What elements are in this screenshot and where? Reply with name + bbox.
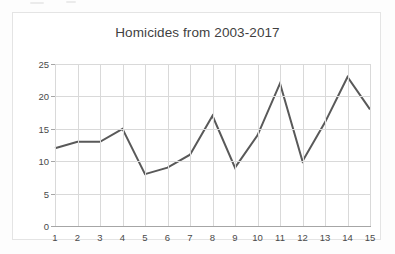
- x-axis-tick-label: 1: [52, 232, 57, 243]
- y-axis-tick-label: 20: [21, 91, 49, 102]
- gridline-vertical: [190, 64, 191, 226]
- gridline-vertical: [348, 64, 349, 226]
- y-axis-tick-label: 10: [21, 156, 49, 167]
- x-axis-tick-label: 11: [275, 232, 285, 243]
- x-axis-tick-label: 7: [187, 232, 192, 243]
- x-axis-line: [55, 226, 371, 227]
- x-axis-tick-label: 6: [165, 232, 170, 243]
- y-axis-tick-label: 5: [21, 188, 49, 199]
- x-axis-tick-label: 10: [252, 232, 263, 243]
- y-axis-tick-label: 0: [21, 221, 49, 232]
- x-axis-tick-label: 3: [97, 232, 102, 243]
- y-axis-tick-label: 25: [21, 59, 49, 70]
- y-axis-tick-mark: [51, 96, 55, 97]
- x-axis-tick-label: 9: [232, 232, 237, 243]
- chart-title: Homicides from 2003-2017: [13, 25, 382, 40]
- gridline-vertical: [280, 64, 281, 226]
- x-axis-tick-label: 15: [365, 232, 376, 243]
- scan-artifact: [30, 2, 44, 4]
- scan-artifact: [66, 1, 76, 3]
- gridline-vertical: [55, 64, 56, 226]
- y-axis-tick-mark: [51, 64, 55, 65]
- x-axis-labels: 123456789101112131415: [55, 232, 370, 248]
- x-axis-tick-label: 13: [320, 232, 331, 243]
- y-axis-tick-mark: [51, 161, 55, 162]
- gridline-vertical: [78, 64, 79, 226]
- gridline-vertical: [168, 64, 169, 226]
- x-axis-tick-label: 8: [210, 232, 215, 243]
- gridline-vertical: [325, 64, 326, 226]
- y-axis-tick-mark: [51, 194, 55, 195]
- y-axis-tick-mark: [51, 129, 55, 130]
- gridline-vertical: [213, 64, 214, 226]
- gridline-vertical: [100, 64, 101, 226]
- gridline-vertical: [370, 64, 371, 226]
- x-axis-tick-label: 14: [342, 232, 353, 243]
- gridline-vertical: [123, 64, 124, 226]
- y-axis-tick-label: 15: [21, 123, 49, 134]
- gridline-vertical: [235, 64, 236, 226]
- gridline-vertical: [258, 64, 259, 226]
- y-axis-labels: 0510152025: [13, 13, 49, 254]
- y-axis-tick-mark: [51, 226, 55, 227]
- plot-area: [55, 64, 370, 226]
- x-axis-tick-label: 5: [142, 232, 147, 243]
- chart-container: Homicides from 2003-2017 0510152025 1234…: [12, 12, 381, 240]
- gridline-vertical: [145, 64, 146, 226]
- x-axis-tick-label: 2: [75, 232, 80, 243]
- x-axis-tick-label: 4: [120, 232, 125, 243]
- x-axis-tick-label: 12: [297, 232, 308, 243]
- gridline-vertical: [303, 64, 304, 226]
